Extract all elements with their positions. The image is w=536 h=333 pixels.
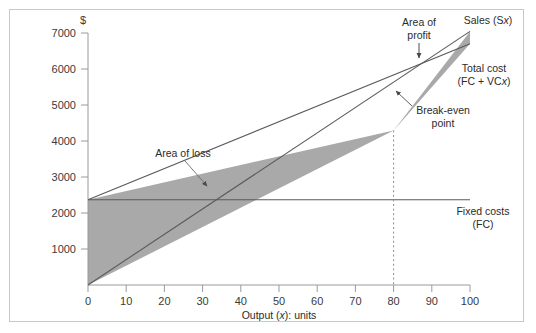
- total-cost-label-tail: ): [507, 75, 511, 87]
- total-cost-label-head: (FC + VC: [458, 75, 502, 87]
- sales-label-head: Sales (S: [464, 14, 504, 26]
- x-tick-label-100: 100: [461, 295, 479, 307]
- y-axis-ticks: [81, 33, 88, 249]
- x-tick-label-30: 30: [196, 295, 208, 307]
- x-tick-label-20: 20: [158, 295, 170, 307]
- sales-series-label: Sales (Sx): [464, 14, 512, 26]
- x-tick-label-60: 60: [311, 295, 323, 307]
- x-tick-label-0: 0: [85, 295, 91, 307]
- total-cost-series-label-line1: Total cost: [462, 62, 506, 74]
- y-tick-label-4000: 4000: [52, 135, 76, 147]
- y-tick-label-6000: 6000: [52, 63, 76, 75]
- fixed-costs-series-label-line2: (FC): [473, 218, 494, 230]
- sales-label-tail: ): [509, 14, 513, 26]
- area-of-loss-region: [88, 130, 394, 285]
- chart-svg: $ 7000 6000 5000 4000 3000 2000 1000 0 1…: [0, 0, 536, 333]
- x-tick-label-70: 70: [349, 295, 361, 307]
- break-even-chart-figure: $ 7000 6000 5000 4000 3000 2000 1000 0 1…: [0, 0, 536, 333]
- y-tick-label-2000: 2000: [52, 207, 76, 219]
- area-of-profit-label-line1: Area of: [402, 16, 436, 28]
- break-even-arrow: [396, 91, 412, 106]
- total-cost-series-label-line2: (FC + VCx): [458, 75, 511, 87]
- x-tick-label-10: 10: [120, 295, 132, 307]
- y-tick-label-3000: 3000: [52, 171, 76, 183]
- area-of-profit-label-line2: profit: [407, 29, 430, 41]
- x-axis-title-tail: ): units: [285, 309, 317, 321]
- y-tick-label-5000: 5000: [52, 99, 76, 111]
- y-tick-label-1000: 1000: [52, 243, 76, 255]
- sales-line: [88, 31, 470, 285]
- area-of-loss-label: Area of loss: [155, 147, 210, 159]
- x-axis-ticks: [88, 285, 470, 292]
- fixed-costs-series-label-line1: Fixed costs: [456, 205, 509, 217]
- break-even-point-label-line1: Break-even: [416, 104, 470, 116]
- y-tick-label-7000: 7000: [52, 27, 76, 39]
- y-axis-unit-label: $: [80, 14, 86, 26]
- x-tick-label-40: 40: [235, 295, 247, 307]
- x-tick-label-50: 50: [273, 295, 285, 307]
- x-tick-label-80: 80: [387, 295, 399, 307]
- x-axis-title-head: Output (: [242, 309, 280, 321]
- break-even-point-label-line2: point: [432, 117, 455, 129]
- x-axis-title: Output (x): units: [242, 309, 317, 321]
- x-tick-label-90: 90: [426, 295, 438, 307]
